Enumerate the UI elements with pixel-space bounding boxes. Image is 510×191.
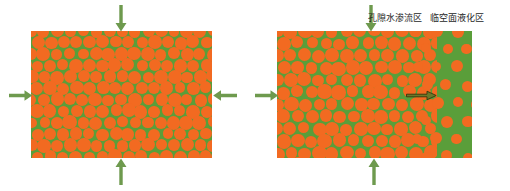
particle: [306, 62, 317, 73]
particle: [333, 133, 347, 147]
particle: [298, 48, 311, 61]
particle: [409, 121, 422, 134]
particle: [320, 109, 332, 121]
particle: [121, 58, 134, 71]
particle: [430, 132, 442, 144]
particle: [162, 104, 174, 116]
particle: [440, 79, 451, 90]
particle: [369, 49, 381, 61]
particle: [380, 147, 394, 158]
particle: [181, 94, 192, 105]
particle: [117, 116, 128, 127]
particle: [325, 147, 339, 158]
particle: [359, 61, 373, 75]
particle: [137, 60, 148, 71]
particle: [208, 116, 212, 127]
particle: [382, 98, 395, 111]
particle: [462, 116, 472, 128]
diagram-canvas: 孔隙水渗流区 临空面液化区: [0, 0, 510, 191]
particle: [291, 134, 305, 148]
particle: [64, 93, 76, 105]
particle: [111, 104, 122, 115]
particle: [355, 148, 366, 158]
particle: [453, 97, 464, 108]
particle: [441, 116, 453, 128]
particle: [284, 97, 298, 111]
particle: [135, 150, 147, 158]
particle: [461, 44, 471, 54]
particle: [312, 50, 325, 63]
particle: [148, 106, 159, 117]
particle: [160, 150, 173, 158]
right-panel-bottom-arrow: [367, 158, 381, 185]
particle: [193, 48, 205, 60]
particle: [31, 118, 37, 129]
particle: [64, 138, 77, 151]
particle: [97, 81, 110, 94]
particle: [292, 110, 304, 122]
particle: [376, 135, 389, 148]
particle: [141, 138, 155, 152]
particle: [200, 128, 211, 139]
particle: [389, 110, 401, 122]
particle: [51, 117, 62, 128]
particle: [277, 148, 285, 158]
particle: [84, 105, 96, 117]
particle: [187, 82, 199, 94]
particle: [375, 61, 387, 73]
particle: [136, 82, 148, 94]
particle: [195, 139, 206, 150]
liquefaction-state-panel: [277, 31, 472, 158]
particle: [142, 117, 154, 129]
particle: [306, 110, 319, 123]
particle: [168, 139, 180, 151]
particle: [45, 150, 57, 158]
particle: [44, 128, 56, 140]
left-panel-bottom-arrow: [114, 158, 128, 185]
particle: [200, 150, 211, 158]
particle: [149, 152, 160, 158]
particle: [291, 36, 303, 48]
liquefaction-zone-label: 临空面液化区: [430, 13, 484, 24]
particle: [361, 109, 375, 123]
particle: [297, 72, 311, 86]
particle: [188, 150, 201, 158]
particle: [96, 129, 109, 142]
particle: [70, 81, 83, 94]
particle: [298, 122, 309, 133]
seepage-zone-label: 孔隙水渗流区: [368, 13, 422, 24]
particle: [130, 117, 141, 128]
particle: [57, 59, 69, 71]
particle: [363, 37, 374, 48]
particle: [395, 146, 408, 158]
particle: [375, 36, 388, 49]
particle: [431, 31, 443, 37]
particle: [451, 134, 461, 144]
particle: [117, 70, 128, 81]
particle: [97, 151, 108, 158]
left-panel-right-arrow: [212, 89, 237, 102]
particle: [57, 152, 68, 159]
particle: [168, 47, 180, 59]
particle: [346, 60, 360, 74]
particle: [122, 36, 134, 48]
particle: [109, 82, 121, 94]
liquefaction-zone-region: [437, 31, 472, 158]
particle: [432, 62, 442, 72]
particle: [348, 111, 359, 122]
particle: [108, 149, 122, 158]
particle: [441, 150, 453, 158]
particle: [321, 38, 332, 49]
particle: [348, 134, 359, 145]
particle: [341, 97, 355, 111]
particle: [463, 153, 472, 158]
particle: [143, 94, 154, 105]
particle: [291, 85, 302, 96]
particle: [462, 81, 472, 92]
particle: [403, 37, 416, 50]
particle: [333, 111, 345, 123]
particle: [413, 62, 423, 72]
particle: [200, 81, 212, 93]
particle: [326, 31, 338, 38]
particle: [155, 117, 167, 129]
